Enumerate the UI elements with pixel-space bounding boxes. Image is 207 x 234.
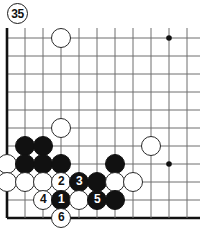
stone-white[interactable]: [69, 190, 89, 210]
stone-move-number: [106, 191, 124, 209]
stone-white[interactable]: [15, 172, 35, 192]
stone-move-number: [88, 173, 106, 191]
stone-move-number: 4: [34, 191, 52, 209]
go-diagram: 35 234156: [0, 0, 207, 234]
go-board[interactable]: 234156: [0, 28, 207, 228]
stone-move-number: 1: [52, 191, 70, 209]
stone-white[interactable]: [33, 172, 53, 192]
stone-black-move-5[interactable]: 5: [87, 190, 107, 210]
stone-white[interactable]: [123, 172, 143, 192]
stone-move-number: [106, 155, 124, 173]
stone-white-move-2[interactable]: 2: [51, 172, 71, 192]
stone-black[interactable]: [15, 136, 35, 156]
stone-white[interactable]: [105, 172, 125, 192]
stone-move-number: [34, 173, 52, 191]
stone-move-number: [124, 173, 142, 191]
stone-white[interactable]: [51, 28, 71, 48]
figure-number-badge: 35: [7, 3, 28, 24]
stone-move-number: [106, 173, 124, 191]
stone-move-number: [52, 119, 70, 137]
stone-black[interactable]: [15, 154, 35, 174]
stone-black[interactable]: [105, 154, 125, 174]
stone-move-number: 6: [52, 209, 70, 227]
stone-white-move-4[interactable]: 4: [33, 190, 53, 210]
stone-move-number: [52, 155, 70, 173]
stone-black-move-3[interactable]: 3: [69, 172, 89, 192]
stone-move-number: [16, 155, 34, 173]
stone-move-number: [34, 155, 52, 173]
stone-move-number: [52, 29, 70, 47]
stone-move-number: [0, 155, 16, 173]
stone-move-number: 3: [70, 173, 88, 191]
stone-move-number: [142, 137, 160, 155]
stone-move-number: 2: [52, 173, 70, 191]
stone-white-move-6[interactable]: 6: [51, 208, 71, 228]
stone-black[interactable]: [33, 136, 53, 156]
stone-white[interactable]: [141, 136, 161, 156]
stone-black[interactable]: [33, 154, 53, 174]
stone-move-number: [0, 173, 16, 191]
stone-black[interactable]: [51, 154, 71, 174]
stone-move-number: [34, 137, 52, 155]
star-point: [166, 161, 172, 167]
stone-move-number: [16, 173, 34, 191]
stone-move-number: 5: [88, 191, 106, 209]
stone-white[interactable]: [51, 118, 71, 138]
stone-black-move-1[interactable]: 1: [51, 190, 71, 210]
stone-move-number: [70, 191, 88, 209]
stone-move-number: [16, 137, 34, 155]
star-point: [166, 35, 172, 41]
stone-black[interactable]: [87, 172, 107, 192]
stone-black[interactable]: [105, 190, 125, 210]
